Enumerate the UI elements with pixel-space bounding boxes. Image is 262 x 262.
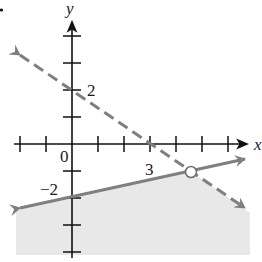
- origin-label: 0: [60, 147, 69, 166]
- bullet-mark: [0, 8, 3, 11]
- intersection-open-circle: [186, 167, 197, 178]
- y-tick-label-neg2: −2: [40, 180, 58, 199]
- x-axis-label: x: [253, 135, 262, 154]
- y-tick-label-2: 2: [87, 81, 96, 100]
- x-tick-label-3: 3: [145, 160, 154, 179]
- y-axis-label: y: [64, 0, 74, 18]
- inequality-graph: y x 0 3 2 −2: [0, 0, 262, 262]
